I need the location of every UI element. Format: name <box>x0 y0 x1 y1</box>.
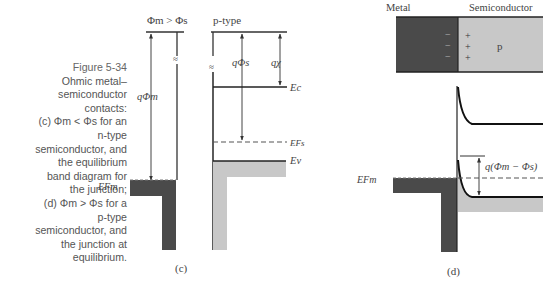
axis-break-icon: ≈ <box>173 54 178 64</box>
q-phi-m-label: qΦm <box>137 91 158 102</box>
panel-d: Metal Semiconductor − − − + + + p EFm q(… <box>356 2 543 278</box>
barrier-label: q(Φm − Φs) <box>485 161 538 173</box>
minus-sign: − <box>445 51 451 62</box>
minus-sign: − <box>445 29 451 40</box>
q-chi-label: qχ <box>271 57 281 68</box>
condition-label: Φm > Φs <box>147 14 188 26</box>
panel-d-label: (d) <box>447 265 460 278</box>
plus-sign: + <box>465 41 471 52</box>
p-region-label: p <box>497 40 503 52</box>
conduction-band-edge <box>458 87 543 124</box>
metal-filled-states <box>130 180 176 250</box>
efm-label: EFm <box>97 181 117 192</box>
ec-label: Ec <box>289 82 301 93</box>
plus-sign: + <box>465 52 471 63</box>
band-diagrams: Φm > Φs qΦm ≈ EFm p-type ≈ qΦs qχ Ec EFs <box>0 0 543 289</box>
q-phi-s-label: qΦs <box>232 57 249 68</box>
axis-break-icon: ≈ <box>209 62 214 72</box>
minus-sign: − <box>445 40 451 51</box>
type-label: p-type <box>213 14 241 26</box>
semiconductor-header: Semiconductor <box>469 2 533 13</box>
plus-sign: + <box>465 30 471 41</box>
valence-band-filled <box>213 161 286 250</box>
panel-c-label: (c) <box>175 262 188 275</box>
efm-label: EFm <box>356 174 376 185</box>
ev-label: Ev <box>289 155 301 166</box>
metal-header: Metal <box>386 2 411 13</box>
panel-c: Φm > Φs qΦm ≈ EFm p-type ≈ qΦs qχ Ec EFs <box>97 14 305 275</box>
efs-label: EFs <box>289 138 305 148</box>
metal-filled-states <box>393 178 457 252</box>
